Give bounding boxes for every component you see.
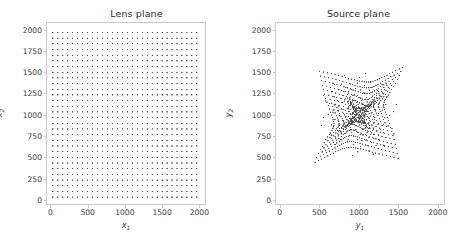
axis-title-lens-x: x1 <box>122 220 131 230</box>
tick-label-x: 1000 <box>115 208 134 217</box>
figure-root: Lens plane 02505007501000125015001750200… <box>0 0 458 238</box>
scatter-canvas-source-plane <box>275 22 445 205</box>
tick-mark-y <box>273 30 276 31</box>
panel-source-plane: Source plane 025050075010001250150017502… <box>229 0 458 238</box>
tick-label-y: 250 <box>233 174 271 183</box>
tick-label-x: 1000 <box>349 208 368 217</box>
panel-lens-plane: Lens plane 02505007501000125015001750200… <box>0 0 229 238</box>
tick-label-x: 2000 <box>428 208 447 217</box>
tick-mark-y <box>44 115 47 116</box>
tick-mark-y <box>273 136 276 137</box>
tick-mark-y <box>44 51 47 52</box>
tick-mark-y <box>44 157 47 158</box>
tick-mark-y <box>273 157 276 158</box>
tick-label-y: 2000 <box>4 25 42 34</box>
tick-mark-y <box>273 51 276 52</box>
tick-label-y: 2000 <box>233 25 271 34</box>
tick-label-y: 1250 <box>233 89 271 98</box>
tick-label-y: 750 <box>4 132 42 141</box>
scatter-canvas-lens-plane <box>46 22 206 205</box>
tick-label-x: 0 <box>48 208 53 217</box>
tick-mark-y <box>273 72 276 73</box>
tick-mark-y <box>273 115 276 116</box>
tick-label-x: 0 <box>277 208 282 217</box>
tick-label-y: 1500 <box>233 68 271 77</box>
tick-label-x: 2000 <box>190 208 209 217</box>
tick-label-y: 750 <box>233 132 271 141</box>
tick-label-x: 500 <box>80 208 95 217</box>
tick-mark-y <box>273 93 276 94</box>
tick-label-y: 0 <box>233 195 271 204</box>
axis-title-source-y: y2 <box>223 104 233 122</box>
tick-label-x: 1500 <box>389 208 408 217</box>
axis-title-lens-y: x2 <box>0 104 4 122</box>
tick-mark-y <box>44 200 47 201</box>
tick-label-y: 1000 <box>233 110 271 119</box>
tick-label-y: 1750 <box>233 46 271 55</box>
tick-mark-y <box>44 136 47 137</box>
tick-label-x: 1500 <box>152 208 171 217</box>
tick-label-y: 1500 <box>4 68 42 77</box>
panel-lens-title: Lens plane <box>0 8 229 19</box>
tick-label-y: 500 <box>4 153 42 162</box>
tick-mark-y <box>44 30 47 31</box>
tick-label-y: 500 <box>233 153 271 162</box>
axis-title-source-x: y1 <box>356 220 365 230</box>
tick-label-y: 250 <box>4 174 42 183</box>
tick-label-y: 1000 <box>4 110 42 119</box>
tick-label-y: 1750 <box>4 46 42 55</box>
tick-mark-y <box>273 200 276 201</box>
tick-mark-y <box>44 179 47 180</box>
tick-label-x: 500 <box>312 208 327 217</box>
tick-mark-y <box>44 93 47 94</box>
tick-label-y: 0 <box>4 195 42 204</box>
tick-mark-y <box>273 179 276 180</box>
panel-source-title: Source plane <box>229 8 458 19</box>
tick-mark-y <box>44 72 47 73</box>
tick-label-y: 1250 <box>4 89 42 98</box>
